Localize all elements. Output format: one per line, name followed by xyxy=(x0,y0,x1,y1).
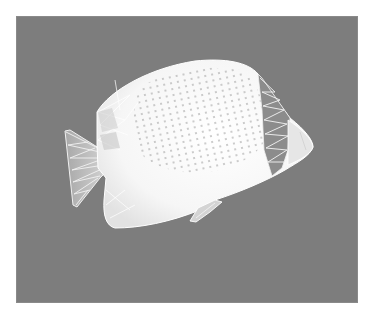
fish-mesh-render xyxy=(0,0,372,320)
